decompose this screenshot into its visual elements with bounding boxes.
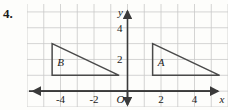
shape-label-B: B xyxy=(57,56,64,68)
y-tick-label-2: 2 xyxy=(117,53,123,65)
origin-label: O xyxy=(117,93,125,105)
x-tick-label--4: -4 xyxy=(56,93,66,105)
problem-number-label: 4. xyxy=(3,6,13,22)
x-tick-label--2: -2 xyxy=(89,93,98,105)
x-tick-label-2: 2 xyxy=(158,93,164,105)
y-axis-label: y xyxy=(117,6,123,18)
coordinate-plane-svg: -4-22424OyxBA xyxy=(27,4,228,107)
graph-labels: -4-22424OyxBA xyxy=(56,6,225,105)
x-tick-label-4: 4 xyxy=(192,93,198,105)
y-tick-label-4: 4 xyxy=(117,22,123,34)
x-axis-label: x xyxy=(219,93,225,105)
shape-label-A: A xyxy=(157,56,165,68)
coordinate-graph: -4-22424OyxBA xyxy=(27,4,228,107)
graph-figure: 4. -4-22424OyxBA xyxy=(0,0,228,110)
